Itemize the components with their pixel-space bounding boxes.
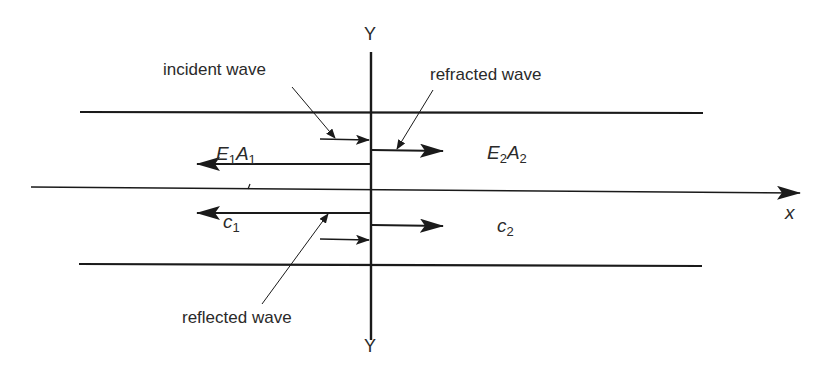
bar-top-boundary <box>80 112 703 113</box>
region1-E1A1-label: E1A1 <box>216 143 256 167</box>
region2-c2-label: c2 <box>497 215 514 239</box>
incident-wave-label: incident wave <box>163 60 266 79</box>
x-axis-line <box>31 187 800 193</box>
bar-bottom-boundary <box>79 264 702 266</box>
refracted-leader-line <box>397 90 433 149</box>
reflected-wave-label: reflected wave <box>182 308 292 327</box>
region1-c1-label: c1 <box>223 211 240 235</box>
wave-interface-diagram: Y Y x incident wave refracted wave refle… <box>0 0 827 368</box>
incident-arrow-upper <box>320 139 369 140</box>
interface-label-bottom: Y <box>364 336 376 356</box>
reflected-leader-line <box>262 214 328 304</box>
refracted-arrow-lower <box>372 225 443 226</box>
incident-arrow-lower <box>320 239 369 240</box>
x-axis-label: x <box>784 202 796 223</box>
refracted-arrow-upper <box>372 150 443 151</box>
refracted-wave-label: refracted wave <box>430 65 542 84</box>
interface-label-top: Y <box>364 24 376 44</box>
region2-E2A2-label: E2A2 <box>487 142 527 166</box>
